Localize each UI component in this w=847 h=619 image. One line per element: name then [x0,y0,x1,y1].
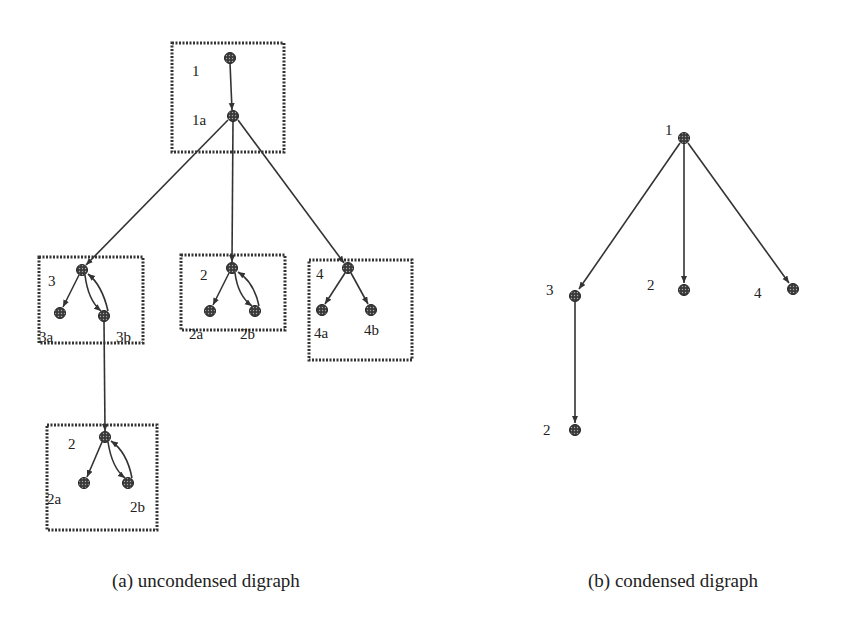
node-2b [250,306,261,317]
node-2 [227,263,238,274]
node-1a [228,111,239,122]
cedge-1-3 [579,143,680,289]
clabel-2b: 2 [543,423,551,438]
clabel-2: 2 [647,278,655,293]
label-3b: 3b [116,330,131,345]
edge-3-3a [63,275,79,307]
node-1 [225,53,236,64]
node-2cb [123,478,134,489]
digraph-figure [0,0,847,619]
edge-2-2b [235,273,252,306]
clabel-3: 3 [546,283,554,298]
label-4: 4 [316,267,324,282]
node-3b [99,311,110,322]
label-2b: 2b [240,327,255,342]
cnode-4 [788,284,799,295]
edge-2-2a [213,273,229,305]
node-4 [343,263,354,274]
edge-1-1a [230,63,232,110]
edge-2c-2ca [87,442,102,477]
edge-2b-2 [238,272,259,306]
edge-3b-3 [88,274,108,311]
node-3 [77,265,88,276]
node-2a [205,306,216,317]
label-4a: 4a [314,326,328,341]
node-2ca [79,478,90,489]
cnode-3 [570,291,581,302]
label-2a: 2a [189,327,203,342]
edge-1a-2 [232,121,233,262]
edge-4-4b [351,273,368,304]
cedge-1-4 [688,143,789,283]
node-3a [55,308,66,319]
label-1: 1 [192,64,200,79]
edge-4-4a [325,273,345,304]
edge-1a-4 [238,120,344,263]
edge-2c-2cb [108,442,125,478]
label-4b: 4b [364,323,379,338]
label-3: 3 [48,274,56,289]
caption-b: (b) condensed digraph [588,571,758,591]
cnode-2 [679,285,690,296]
edge-3b-2c [104,321,105,431]
label-3a: 3a [39,330,53,345]
edge-3-3b [85,275,101,311]
cnode-1 [679,133,690,144]
label-1a: 1a [192,113,206,128]
label-2cb: 2b [130,500,145,515]
node-2c [100,432,111,443]
label-2ca: 2a [47,492,61,507]
clabel-1: 1 [665,123,673,138]
node-4b [366,305,377,316]
label-2: 2 [200,268,208,283]
caption-a: (a) uncondensed digraph [112,571,300,591]
clabel-4: 4 [754,286,762,301]
edge-1a-3 [86,120,228,265]
node-4a [317,305,328,316]
cnode-2b [570,425,581,436]
edge-2cb-2c [111,441,132,478]
label-2c: 2 [68,437,76,452]
